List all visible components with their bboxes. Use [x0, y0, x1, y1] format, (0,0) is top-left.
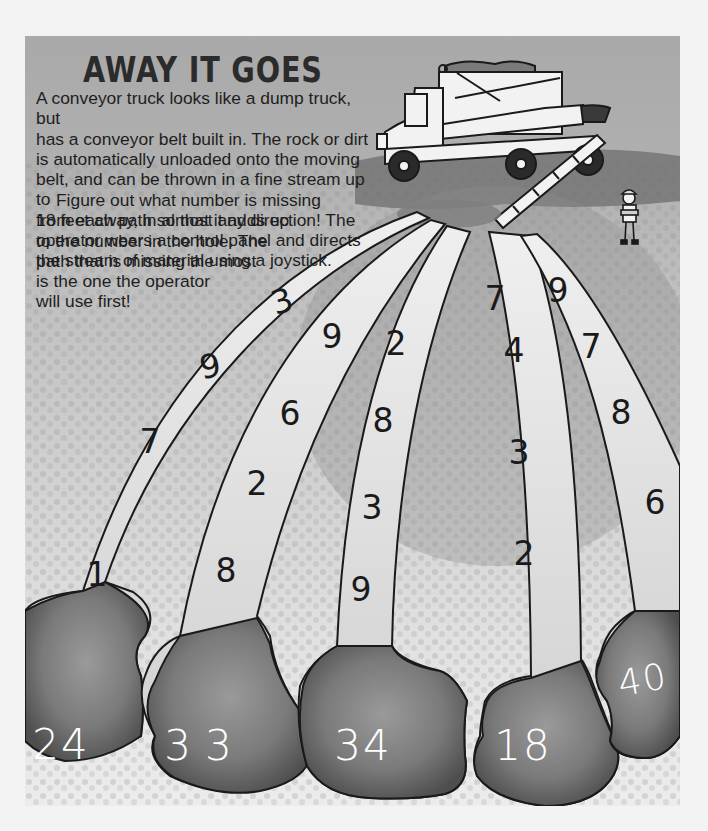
hole-5-total: 40: [615, 658, 670, 702]
hole-1-total: 24: [32, 724, 89, 766]
hole-4-total: 18: [494, 725, 551, 767]
hole-2-total: 33: [164, 725, 245, 767]
path-1-number: 1: [87, 558, 108, 591]
hole-3-total: 34: [334, 725, 391, 767]
instruction-line: from each path so that it adds up: [36, 210, 321, 230]
path-3-number: 8: [373, 404, 394, 437]
path-4-number: 4: [504, 334, 525, 367]
path-5-number: 6: [645, 486, 666, 519]
path-4-number: 7: [485, 282, 506, 315]
path-5-number: 7: [581, 330, 602, 363]
instruction-line: path that is missing the most: [36, 251, 321, 271]
path-5-number: 9: [548, 274, 569, 307]
intro-line: A conveyor truck looks like a dump truck…: [36, 88, 376, 129]
path-5-number: 8: [611, 396, 632, 429]
path-3-number: 2: [386, 327, 407, 360]
path-2-number: 8: [216, 554, 237, 587]
path-2-number: 6: [280, 397, 301, 430]
path-1-number: 7: [140, 425, 161, 458]
path-3-number: 3: [362, 491, 383, 524]
instruction-line: to the number in the hole. The: [36, 231, 321, 251]
intro-line: has a conveyor belt built in. The rock o…: [36, 129, 376, 149]
path-4-number: 3: [509, 436, 530, 469]
intro-line: is automatically unloaded onto the movin…: [36, 149, 376, 169]
path-2-number: 9: [322, 320, 343, 353]
puzzle-panel: AWAY IT GOES A conveyor truck looks like…: [25, 36, 680, 806]
path-2-number: 2: [247, 467, 268, 500]
path-3-number: 9: [351, 573, 372, 606]
path-4-number: 2: [514, 537, 535, 570]
instruction-line: Figure out what number is missing: [36, 190, 321, 210]
page-title: AWAY IT GOES: [83, 50, 323, 90]
